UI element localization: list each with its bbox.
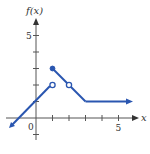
closed-point-1-3 [50,66,55,71]
piece-1 [11,86,50,126]
x-axis-arrow-icon [132,115,139,121]
y-tick-label-5: 5 [26,31,32,41]
origin-label: 0 [28,122,34,132]
open-point-1-2 [50,82,55,87]
y-axis-arrow-icon [33,18,39,25]
piece-3-arrow-icon [126,99,133,105]
graph: f(x) x 0 5 5 [0,0,150,154]
x-axis-label: x [141,112,147,123]
open-point-2-2 [66,82,71,87]
x-tick-label-5: 5 [116,123,122,133]
y-axis-label: f(x) [25,5,43,16]
